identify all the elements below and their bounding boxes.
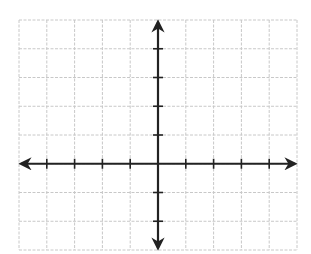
coordinate-plane	[0, 0, 311, 254]
